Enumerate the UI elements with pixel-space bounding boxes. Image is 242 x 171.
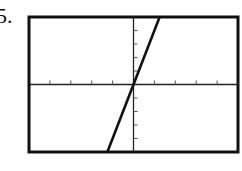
graphing-calculator-plot <box>0 0 242 171</box>
